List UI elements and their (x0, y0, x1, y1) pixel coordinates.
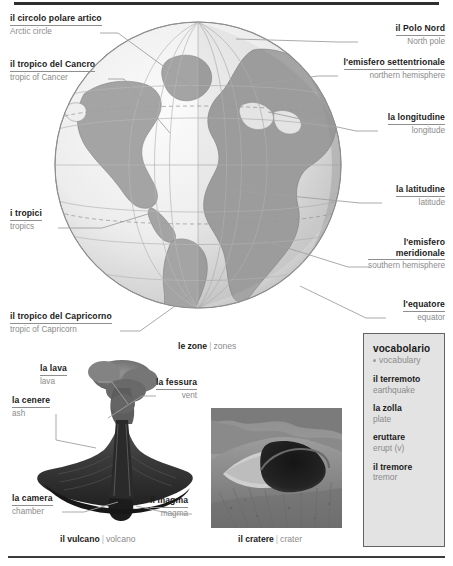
label-english: chamber (12, 506, 53, 516)
globe-label-tropics: i tropici tropics (10, 209, 42, 231)
label-english: latitude (396, 197, 445, 207)
label-italian: il tropico del Capricorno (10, 312, 112, 324)
label-english: tropic of Capricorn (10, 324, 112, 334)
caption-italian: il vulcano (60, 534, 100, 544)
vocabulary-box: vocabolario vocabulary il terremoto eart… (363, 333, 445, 547)
label-english: longitude (388, 125, 445, 135)
label-italian: il tropico del Cancro (10, 60, 95, 72)
label-italian: la lava (40, 364, 67, 376)
caption-english: volcano (106, 534, 136, 544)
volcano-label-ash: la cenere ash (12, 396, 50, 418)
vocab-italian: il terremoto (373, 374, 444, 385)
label-english: southern hemisphere (368, 260, 445, 270)
globe-label-tropic-of-cancer: il tropico del Cancro tropic of Cancer (10, 60, 95, 82)
vocabulary-title: vocabolario (373, 343, 444, 354)
bottom-divider (8, 556, 445, 558)
label-english: tropic of Cancer (10, 72, 95, 82)
label-italian: i tropici (10, 209, 42, 221)
vocab-italian: il tremore (373, 462, 444, 473)
volcano-label-vent: la fessura vent (156, 378, 197, 400)
globe-caption: le zone|zones (178, 341, 236, 351)
label-english: lava (40, 376, 67, 386)
crater-photo (211, 408, 342, 528)
globe-label-arctic-circle: il circolo polare artico Arctic circle (10, 14, 102, 36)
caption-english: zones (213, 341, 236, 351)
label-italian: la latitudine (396, 185, 445, 197)
globe-label-longitude: la longitudine longitude (388, 113, 445, 135)
label-italian: la cenere (12, 396, 50, 408)
bullet-icon (373, 359, 376, 362)
globe-label-northern-hemisphere: l'emisfero settentrionale northern hemis… (344, 58, 446, 80)
label-english: northern hemisphere (344, 70, 446, 80)
globe-label-tropic-of-capricorn: il tropico del Capricorno tropic of Capr… (10, 312, 112, 334)
label-italian: la fessura (156, 378, 197, 390)
vocab-english: erupt (v) (373, 443, 444, 454)
vocabulary-item-earthquake: il terremoto earthquake (373, 374, 444, 395)
vocab-english: earthquake (373, 385, 444, 396)
label-italian: il Polo Nord (396, 24, 445, 36)
label-english: Arctic circle (10, 26, 102, 36)
vocabulary-subtitle: vocabulary (379, 355, 421, 365)
globe-illustration (48, 8, 348, 338)
volcano-label-chamber: la camera chamber (12, 494, 53, 516)
page-root: il circolo polare artico Arctic circle i… (0, 0, 453, 566)
caption-english: crater (280, 534, 302, 544)
caption-italian: il cratere (238, 534, 274, 544)
label-italian: il circolo polare artico (10, 14, 102, 26)
label-italian: la camera (12, 494, 53, 506)
vocab-italian: eruttare (373, 432, 444, 443)
label-english: tropics (10, 221, 42, 231)
globe-label-north-pole: il Polo Nord North pole (396, 24, 445, 46)
label-italian: l'emisfero settentrionale (344, 58, 446, 70)
volcano-label-lava: la lava lava (40, 364, 67, 386)
top-divider (14, 2, 439, 5)
label-english: vent (156, 390, 197, 400)
label-english: equator (403, 312, 445, 322)
label-italian: la longitudine (388, 113, 445, 125)
caption-italian: le zone (178, 341, 207, 351)
label-italian: il magma (150, 496, 188, 508)
crater-caption: il cratere|crater (238, 534, 302, 544)
globe-label-latitude: la latitudine latitude (396, 185, 445, 207)
vocabulary-item-plate: la zolla plate (373, 403, 444, 424)
globe-label-equator: l'equatore equator (403, 300, 445, 322)
vocabulary-item-erupt: eruttare erupt (v) (373, 432, 444, 453)
vocab-italian: la zolla (373, 403, 444, 414)
vocab-english: tremor (373, 472, 444, 483)
vocabulary-item-tremor: il tremore tremor (373, 462, 444, 483)
label-english: magma (150, 508, 188, 518)
volcano-label-magma: il magma magma (150, 496, 188, 518)
volcano-caption: il vulcano|volcano (60, 534, 136, 544)
vocabulary-subtitle-row: vocabulary (373, 355, 444, 365)
label-italian: l'equatore (403, 300, 445, 312)
label-italian-line2: meridionale (368, 249, 445, 261)
vocab-english: plate (373, 414, 444, 425)
label-english: ash (12, 408, 50, 418)
label-english: North pole (396, 36, 445, 46)
globe-label-southern-hemisphere: l'emisfero meridionale southern hemisphe… (368, 238, 445, 270)
